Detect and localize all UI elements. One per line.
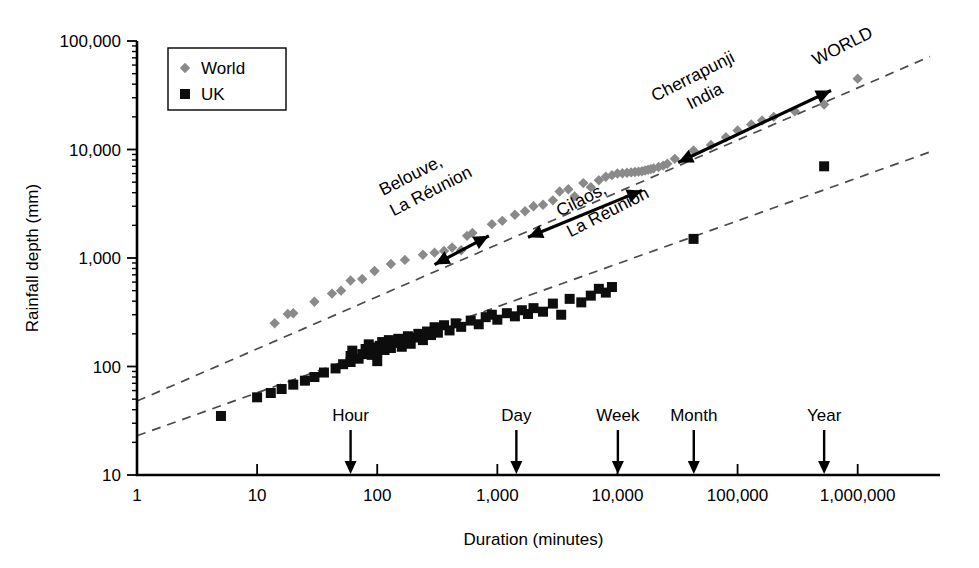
data-point-world — [418, 250, 428, 260]
time-marker-arrow-month — [688, 461, 700, 474]
y-tick-label: 100,000 — [60, 32, 121, 51]
legend-label-world: World — [201, 59, 245, 78]
data-point-world — [554, 186, 564, 196]
x-tick-label: 1 — [132, 486, 141, 505]
time-marker-label-hour: Hour — [332, 406, 369, 425]
data-point-world — [336, 285, 346, 295]
data-point-world — [538, 199, 548, 209]
data-point-uk — [556, 310, 566, 320]
data-point-uk — [309, 372, 319, 382]
data-point-uk — [565, 294, 575, 304]
data-point-uk — [252, 392, 262, 402]
time-marker-arrow-year — [818, 461, 830, 474]
legend-box — [168, 48, 286, 110]
y-tick-label: 10,000 — [69, 141, 121, 160]
time-marker-arrow-day — [510, 461, 522, 474]
y-tick-label: 10 — [102, 466, 121, 485]
time-marker-label-day: Day — [501, 406, 532, 425]
rainfall-duration-chart: 101001,00010,000100,0001101001,00010,000… — [0, 0, 979, 568]
data-point-uk — [456, 322, 466, 332]
legend-marker-uk — [180, 89, 190, 99]
x-axis-title: Duration (minutes) — [464, 530, 604, 549]
data-point-world — [309, 297, 319, 307]
annotation-cherrapunji-label: CherrapunjiIndia — [648, 47, 748, 126]
chart-canvas: 101001,00010,000100,0001101001,00010,000… — [0, 0, 979, 568]
y-axis-title: Rainfall depth (mm) — [23, 184, 42, 332]
time-marker-arrow-week — [612, 461, 624, 474]
data-point-uk — [548, 299, 558, 309]
time-marker-label-week: Week — [596, 406, 640, 425]
data-point-world — [429, 247, 439, 257]
data-point-world — [497, 216, 507, 226]
data-point-uk — [819, 161, 829, 171]
data-point-world — [269, 318, 279, 328]
legend-label-uk: UK — [201, 85, 225, 104]
data-point-world — [852, 73, 862, 83]
data-point-uk — [266, 388, 276, 398]
x-tick-label: 100 — [363, 486, 391, 505]
data-point-uk — [300, 376, 310, 386]
data-point-uk — [288, 380, 298, 390]
data-point-world — [345, 275, 355, 285]
data-point-uk — [529, 303, 539, 313]
x-tick-label: 10 — [248, 486, 267, 505]
data-point-world — [520, 206, 530, 216]
data-point-uk — [492, 315, 502, 325]
x-tick-label: 1,000 — [476, 486, 519, 505]
y-tick-label: 1,000 — [78, 249, 121, 268]
annotation-world-line-label: WORLD — [809, 22, 876, 69]
data-point-uk — [319, 368, 329, 378]
annotation-belouve-label: Belouve,La Réunion — [376, 141, 475, 220]
data-point-uk — [538, 307, 548, 317]
data-point-world — [487, 219, 497, 229]
time-marker-label-year: Year — [807, 406, 842, 425]
data-point-uk — [689, 234, 699, 244]
data-point-world — [386, 259, 396, 269]
y-tick-label: 100 — [93, 358, 121, 377]
data-point-world — [510, 210, 520, 220]
x-tick-label: 10,000 — [591, 486, 643, 505]
data-point-uk — [216, 411, 226, 421]
data-point-world — [528, 201, 538, 211]
data-point-world — [369, 266, 379, 276]
svg-text:WORLD: WORLD — [809, 22, 876, 69]
x-tick-label: 100,000 — [707, 486, 768, 505]
data-point-uk — [576, 297, 586, 307]
x-tick-label: 1,000,000 — [820, 486, 896, 505]
data-point-uk — [372, 356, 382, 366]
time-marker-arrow-hour — [345, 461, 357, 474]
data-point-uk — [607, 282, 617, 292]
data-point-world — [327, 288, 337, 298]
data-point-uk — [277, 384, 287, 394]
data-point-world — [400, 255, 410, 265]
data-point-world — [357, 274, 367, 284]
time-marker-label-month: Month — [670, 406, 717, 425]
